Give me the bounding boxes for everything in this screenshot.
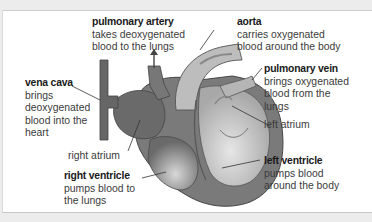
label-vena-cava: vena cava brings deoxygenated blood into… bbox=[25, 77, 90, 140]
label-title: right ventricle bbox=[64, 170, 135, 183]
label-left-ventricle: left ventricle pumps blood around the bo… bbox=[264, 155, 339, 193]
label-title: aorta bbox=[237, 16, 340, 29]
label-aorta: aorta carries oxygenated blood around th… bbox=[237, 16, 340, 54]
label-right-atrium: right atrium bbox=[68, 150, 120, 163]
label-title: left ventricle bbox=[264, 155, 339, 168]
label-title: pulmonary vein bbox=[264, 63, 349, 76]
label-pulmonary-artery: pulmonary artery takes deoxygenated bloo… bbox=[92, 16, 185, 54]
label-title: vena cava bbox=[25, 77, 90, 90]
label-title: pulmonary artery bbox=[92, 16, 185, 29]
vena-cava bbox=[100, 60, 118, 140]
label-pulmonary-vein: pulmonary vein brings oxygenated blood f… bbox=[264, 63, 349, 113]
label-right-ventricle: right ventricle pumps blood to the lungs bbox=[64, 170, 135, 208]
label-left-atrium: left atrium bbox=[264, 119, 310, 132]
